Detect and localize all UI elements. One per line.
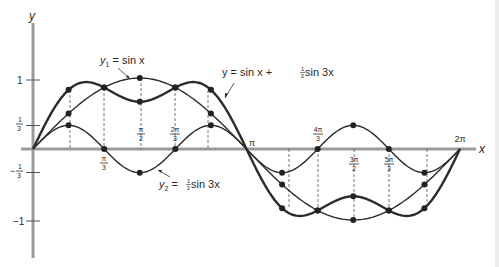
frac-den: 3 (387, 165, 391, 172)
x-tick-label-pi-3: π 3 (100, 155, 108, 171)
frac-num: 5π (385, 156, 394, 163)
frac-num: π (102, 155, 107, 162)
data-point (101, 85, 107, 91)
frac-num: 1 (18, 116, 22, 123)
data-point (101, 146, 107, 152)
data-point (172, 146, 178, 152)
data-point (208, 87, 214, 93)
frac-num: 4π (314, 126, 323, 133)
annotation-y1: y1 = sin x (99, 54, 145, 79)
data-point (208, 111, 214, 117)
frac-den: 3 (173, 135, 177, 142)
frac-num: 1 (18, 163, 22, 170)
x-tick-label-pi: π (249, 138, 255, 148)
data-point (208, 122, 214, 128)
data-point (386, 146, 392, 152)
data-point (421, 170, 427, 176)
page-edge-shading (495, 0, 499, 267)
frac-den: 3 (187, 185, 191, 191)
frac-den: 3 (316, 135, 320, 142)
data-point (66, 87, 72, 93)
y-tick-labels: 1 1 3 − 1 3 −1 (10, 75, 25, 227)
frac-num: π (139, 126, 144, 133)
data-point (66, 122, 72, 128)
data-point (279, 170, 285, 176)
data-point (315, 207, 321, 213)
data-point (137, 170, 143, 176)
data-point (421, 182, 427, 188)
y-tick-label-third: 1 3 (16, 116, 23, 132)
data-point (386, 207, 392, 213)
y-tick-label-1: 1 (17, 75, 23, 86)
sum-label: y = sin x + (222, 66, 272, 78)
data-point (172, 85, 178, 91)
x-tick-label-2pi: 2π (454, 134, 465, 144)
data-point (137, 75, 143, 81)
frac-num: 2π (171, 126, 180, 133)
frac-num: 3π (350, 156, 359, 163)
data-point (350, 217, 356, 223)
y1-label: y1 = sin x (99, 54, 145, 68)
minus-sign: − (10, 166, 15, 176)
x-tick-label-3pi-2: 3π 2 (349, 156, 359, 172)
x-tick-label-5pi-3: 5π 3 (384, 156, 394, 172)
data-point (315, 146, 321, 152)
frac-den: 3 (301, 73, 305, 79)
y-axis-label: y (28, 9, 36, 23)
data-point (350, 193, 356, 199)
frac-den: 2 (139, 135, 143, 142)
annotation-y2: y2 = 1 3 sin 3x (158, 170, 220, 192)
data-point (279, 205, 285, 211)
data-point (279, 182, 285, 188)
frac-den: 3 (17, 172, 21, 179)
data-point (66, 111, 72, 117)
y-tick-label-neg-1: −1 (13, 216, 25, 227)
annotation-sum: y = sin x + 1 3 sin 3x (222, 66, 334, 98)
frac-den: 3 (102, 164, 106, 171)
sum-label-rest: sin 3x (305, 66, 334, 78)
data-point (421, 205, 427, 211)
y2-label: y2 = (158, 178, 178, 192)
data-point (350, 122, 356, 128)
frac-den: 3 (17, 125, 21, 132)
x-axis-label: x (478, 142, 486, 156)
data-point (137, 99, 143, 105)
x-tick-label-pi-2: π 2 (137, 126, 145, 142)
y2-label-rest: sin 3x (191, 178, 220, 190)
sine-sum-chart: y x 1 1 3 − 1 3 −1 π (0, 0, 499, 267)
y-tick-label-neg-third: − 1 3 (10, 163, 23, 179)
x-tick-label-2pi-3: 2π 3 (170, 126, 180, 142)
frac-den: 2 (352, 165, 356, 172)
x-tick-label-4pi-3: 4π 3 (313, 126, 323, 142)
